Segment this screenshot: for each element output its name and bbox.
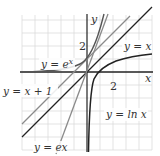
label-ln: y = ln x <box>105 108 147 120</box>
y-axis-label: y <box>90 13 98 26</box>
y-tick-label: 2 <box>79 40 86 53</box>
label-tangent-exp: y = x + 1 <box>2 85 52 97</box>
label-exp: y = ex <box>40 57 74 70</box>
function-graph: y x 2 2 y = ex y = x y = x + 1 y = ln x … <box>0 0 160 156</box>
x-tick-label: 2 <box>110 80 117 93</box>
x-axis-label: x <box>145 72 152 85</box>
label-tangent-ln: y = ex <box>33 141 68 153</box>
label-identity: y = x <box>123 40 151 52</box>
